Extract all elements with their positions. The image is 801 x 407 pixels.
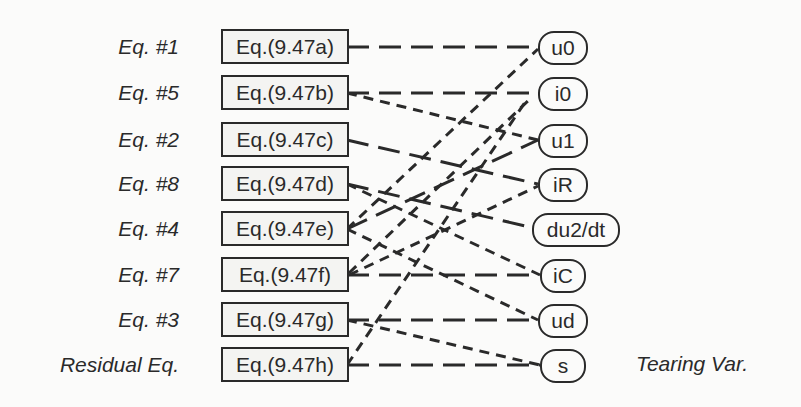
eq-label-1: Eq. #1 [0,35,179,59]
edge-h-i0 [347,98,528,365]
edge-e-u0 [347,49,538,229]
equation-node-e: Eq.(9.47e) [221,211,349,246]
eq-label-5: Eq. #4 [0,217,179,241]
equation-node-d: Eq.(9.47d) [221,166,349,201]
variable-node-i0: i0 [538,77,588,111]
eq-label-2: Eq. #5 [0,81,179,105]
equation-node-b: Eq.(9.47b) [221,75,349,110]
variable-node-ud: ud [538,304,588,338]
edge-layer [0,0,801,407]
eq-label-8: Residual Eq. [0,353,179,377]
equation-node-c: Eq.(9.47c) [221,122,349,157]
edge-c-iR [347,140,538,184]
edge-g-s [347,320,540,365]
edge-b-u1 [347,93,538,140]
variable-node-iC: iC [540,259,586,293]
variable-node-u1: u1 [538,124,588,158]
eq-label-4: Eq. #8 [0,172,179,196]
eq-label-6: Eq. #7 [0,263,179,287]
equation-node-a: Eq.(9.47a) [221,29,349,64]
variable-node-iR: iR [538,168,588,202]
variable-node-u0: u0 [538,31,588,65]
variable-node-du2dt: du2/dt [532,213,620,247]
eq-label-7: Eq. #3 [0,308,179,332]
equation-node-f: Eq.(9.47f) [221,257,349,292]
equation-node-h: Eq.(9.47h) [221,347,349,382]
matching-edges [347,47,540,365]
variable-node-s: s [540,349,586,383]
equation-node-g: Eq.(9.47g) [221,302,349,337]
edge-f-i0-1 [349,97,532,273]
eq-label-3: Eq. #2 [0,128,179,152]
tearing-variable-label: Tearing Var. [636,352,748,376]
